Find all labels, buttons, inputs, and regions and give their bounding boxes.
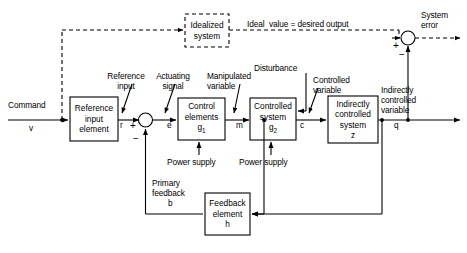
sign-summing-left-minus: − xyxy=(133,134,139,144)
label-ideal-value-path: Ideal value = desired output xyxy=(247,19,349,29)
label-indirectly-controlled-variable: Indirectly controlled variable xyxy=(381,85,416,115)
label-primary-feedback-variable: b xyxy=(168,199,173,208)
controlled-system-symbol: g2 xyxy=(269,122,277,136)
label-actuating-signal-variable: e xyxy=(167,121,172,130)
label-idealized-system: Idealized system xyxy=(185,14,229,47)
sign-summing-right-plus: + xyxy=(393,41,399,51)
label-power-supply-controlled-system: Power supply xyxy=(239,157,288,167)
label-feedback-element: Feedback element h xyxy=(205,193,250,235)
label-control-elements: Control elements g1 xyxy=(178,98,225,140)
label-controlled-variable: Controlled variable xyxy=(313,75,350,95)
label-system-error: System error xyxy=(421,10,448,30)
label-indirectly-controlled-variable-variable: q xyxy=(394,121,399,130)
summing-junction-right xyxy=(401,31,415,45)
label-manipulated-variable-variable: m xyxy=(236,121,243,130)
control-elements-symbol: g1 xyxy=(197,122,205,136)
label-command-variable: v xyxy=(29,124,33,133)
label-controlled-variable-variable: c xyxy=(300,121,304,130)
control-elements-line2: elements xyxy=(185,112,219,123)
label-reference-input-element: Reference input element xyxy=(70,97,118,141)
label-disturbance: Disturbance xyxy=(254,63,297,73)
label-reference-input-variable: r xyxy=(120,121,123,130)
label-primary-feedback: Primary feedback xyxy=(152,178,185,198)
junction-dot-q xyxy=(406,118,410,122)
label-actuating-signal: Actuating signal xyxy=(146,71,200,91)
controlled-system-line1: Controlled xyxy=(254,101,292,112)
label-controlled-system: Controlled system g2 xyxy=(250,98,296,140)
label-manipulated-variable: Manipulated variable xyxy=(207,71,251,91)
label-command: Command xyxy=(8,100,46,110)
summing-junction-left xyxy=(139,113,153,127)
block-diagram-canvas: Command v Reference input element Refere… xyxy=(0,0,467,253)
label-power-supply-control-elements: Power supply xyxy=(167,157,216,167)
sign-summing-right-minus: − xyxy=(399,50,405,60)
junction-dot-command xyxy=(60,118,64,122)
label-indirectly-controlled-system: Indirectly controlled system z xyxy=(328,96,378,143)
controlled-system-line2: system xyxy=(260,112,286,123)
control-elements-line1: Control xyxy=(188,101,215,112)
sign-summing-left-plus: + xyxy=(130,121,136,131)
